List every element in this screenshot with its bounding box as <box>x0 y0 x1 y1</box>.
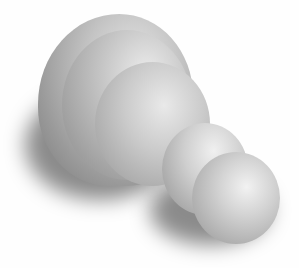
small-sphere-front <box>192 152 280 244</box>
render-canvas <box>0 0 299 268</box>
